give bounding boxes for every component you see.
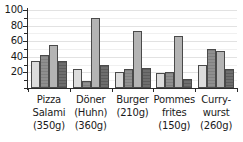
category-label: Döner(Huhn)(360g) [70, 93, 112, 132]
bar [91, 18, 100, 88]
bar [115, 72, 124, 88]
y-axis-tick-label: 80 [1, 21, 23, 31]
category-label: Curry-wurst(260g) [195, 93, 237, 132]
x-axis-tick [153, 88, 154, 92]
category-label-line: (350g) [28, 119, 70, 132]
category-label-line: Burger [112, 93, 154, 106]
category-label-line: (210g) [112, 106, 154, 119]
bars-layer [28, 10, 237, 88]
bar [73, 69, 82, 88]
x-axis-tick [237, 88, 238, 92]
bar [58, 61, 67, 88]
category-label-line: Curry- [195, 93, 237, 106]
category-label: PizzaSalami(350g) [28, 93, 70, 132]
bar [142, 68, 151, 88]
bar-group [31, 10, 67, 88]
bar [207, 49, 216, 88]
bar [225, 69, 234, 89]
category-label-line: (Huhn) [70, 106, 112, 119]
category-label: Pommesfrites(150g) [153, 93, 195, 132]
category-label-line: (260g) [195, 119, 237, 132]
category-label-line: wurst [195, 106, 237, 119]
bar [49, 45, 58, 88]
bar [165, 72, 174, 88]
bar [198, 65, 207, 88]
y-axis-tick-label: 60 [1, 36, 23, 46]
bar-group [198, 10, 234, 88]
category-label-line: frites [153, 106, 195, 119]
x-axis-tick [70, 88, 71, 92]
bar [133, 31, 142, 88]
category-label-line: Döner [70, 93, 112, 106]
x-axis-tick [112, 88, 113, 92]
bar [174, 36, 183, 88]
category-label-line: (150g) [153, 119, 195, 132]
y-axis-tick-label-wrap: 40 [0, 52, 23, 62]
bar-group [156, 10, 192, 88]
x-axis-line [24, 88, 237, 89]
y-axis-tick-label: 20 [1, 67, 23, 77]
category-label-line: Pommes [153, 93, 195, 106]
bar [156, 73, 165, 88]
y-axis-tick-label-wrap: 20 [0, 67, 23, 77]
y-axis-tick-label: 40 [1, 52, 23, 62]
bar [40, 55, 49, 88]
bar [216, 51, 225, 88]
y-axis-tick-label-wrap: 100 [0, 5, 23, 15]
bar-group [73, 10, 109, 88]
bar [82, 81, 91, 88]
bar-group [115, 10, 151, 88]
bar [124, 69, 133, 88]
x-axis-tick [28, 88, 29, 92]
category-label: Burger(210g) [112, 93, 154, 119]
category-label-line: Pizza [28, 93, 70, 106]
x-axis-tick [195, 88, 196, 92]
y-axis-tick-label-wrap: 80 [0, 21, 23, 31]
y-axis-tick-label-wrap: 60 [0, 36, 23, 46]
category-label-line: Salami [28, 106, 70, 119]
bar [31, 61, 40, 88]
bar [100, 65, 109, 88]
bar-chart: 20406080100 PizzaSalami(350g)Döner(Huhn)… [0, 0, 243, 142]
y-axis-tick-label: 100 [1, 5, 23, 15]
category-label-line: (360g) [70, 119, 112, 132]
bar [183, 79, 192, 88]
